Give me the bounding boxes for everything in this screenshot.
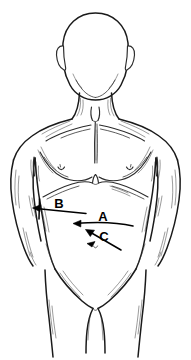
arrow-b-tick	[39, 199, 40, 219]
torso-illustration: B A C	[0, 0, 191, 360]
head	[63, 13, 129, 100]
label-c: C	[99, 229, 109, 244]
label-a: A	[98, 209, 108, 224]
label-b: B	[54, 196, 63, 211]
anatomical-figure: B A C	[0, 0, 191, 360]
